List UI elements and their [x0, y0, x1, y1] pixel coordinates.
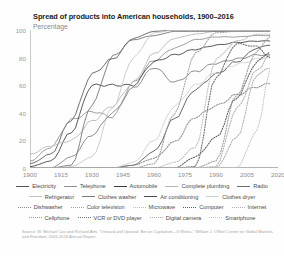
legend-label: Clothes washer — [98, 194, 136, 200]
legend-item[interactable]: Clothes dryer — [206, 194, 255, 200]
chart-screenshot: Spread of products into American househo… — [0, 0, 284, 256]
series-line — [30, 56, 270, 168]
source-note: Source: W. Michael Cox and Richard Alm, … — [22, 229, 274, 239]
legend-label: Refrigerator — [45, 194, 74, 200]
legend-swatch-icon — [150, 217, 163, 218]
series-line — [30, 31, 270, 153]
legend-swatch-icon — [64, 186, 77, 187]
y-tick-label: 60 — [19, 82, 26, 89]
legend-swatch-icon — [206, 196, 219, 197]
y-tick-label: 40 — [19, 109, 26, 116]
chart-subtitle: Percentage — [33, 23, 68, 30]
legend-label: VCR or DVD player — [94, 215, 142, 221]
legend-label: Radio — [253, 183, 268, 189]
legend-label: Internet — [248, 204, 267, 210]
legend-item[interactable]: Complete plumbing — [165, 183, 229, 189]
legend-item[interactable]: Electricity — [16, 183, 56, 189]
legend-swatch-icon — [78, 217, 91, 218]
legend-item[interactable]: Microwave — [133, 204, 176, 210]
legend-row: DishwasherColor televisionMicrowaveCompu… — [8, 202, 276, 213]
x-tick-label: 1930 — [85, 171, 99, 178]
legend-row: RefrigeratorClothes washerAir conditioni… — [8, 192, 276, 203]
legend-label: Clothes dryer — [222, 194, 255, 200]
legend-swatch-icon — [18, 207, 31, 208]
legend-row: ElectricityTelephoneAutomobileComplete p… — [8, 181, 276, 192]
legend-label: Air conditioning — [160, 194, 198, 200]
legend-swatch-icon — [82, 196, 95, 197]
legend-label: Telephone — [80, 183, 106, 189]
chart-legend: ElectricityTelephoneAutomobileComplete p… — [8, 181, 276, 223]
x-tick-label: 1900 — [23, 171, 37, 178]
legend-label: Electricity — [32, 183, 56, 189]
legend-swatch-icon — [232, 207, 245, 208]
series-line — [30, 31, 270, 168]
legend-label: Digital camera — [166, 215, 201, 221]
x-tick-label: 1960 — [147, 171, 161, 178]
series-line — [30, 30, 270, 164]
legend-label: Color television — [87, 204, 125, 210]
series-line — [30, 55, 270, 168]
series-line — [30, 45, 270, 168]
legend-item[interactable]: Clothes washer — [82, 194, 136, 200]
legend-item[interactable]: Computer — [183, 204, 223, 210]
plot-area — [30, 30, 278, 168]
series-line — [30, 54, 270, 168]
series-lines — [30, 30, 278, 168]
legend-label: Cellphone — [45, 215, 70, 221]
legend-swatch-icon — [29, 217, 42, 218]
legend-swatch-icon — [209, 217, 222, 218]
legend-swatch-icon — [71, 207, 84, 208]
legend-item[interactable]: Dishwasher — [18, 204, 63, 210]
x-tick-label: 1945 — [116, 171, 130, 178]
legend-label: Automobile — [130, 183, 158, 189]
legend-item[interactable]: Radio — [237, 183, 268, 189]
y-tick-label: 100 — [16, 27, 26, 34]
x-tick-label: 1990 — [209, 171, 223, 178]
legend-item[interactable]: Smartphone — [209, 215, 255, 221]
legend-item[interactable]: Refrigerator — [29, 194, 74, 200]
x-tick-label: 1915 — [54, 171, 68, 178]
legend-swatch-icon — [29, 196, 42, 197]
legend-label: Microwave — [149, 204, 176, 210]
legend-swatch-icon — [237, 186, 250, 187]
legend-item[interactable]: VCR or DVD player — [78, 215, 142, 221]
legend-item[interactable]: Color television — [71, 204, 125, 210]
x-tick-label: 2005 — [240, 171, 254, 178]
legend-swatch-icon — [183, 207, 196, 208]
legend-row: CellphoneVCR or DVD playerDigital camera… — [8, 213, 276, 224]
legend-item[interactable]: Air conditioning — [144, 194, 198, 200]
legend-label: Complete plumbing — [181, 183, 229, 189]
x-tick-label: 2020 — [271, 171, 284, 178]
legend-item[interactable]: Automobile — [114, 183, 158, 189]
series-line — [30, 31, 270, 168]
y-tick-label: 20 — [19, 137, 26, 144]
legend-label: Dishwasher — [34, 204, 63, 210]
legend-swatch-icon — [144, 196, 157, 197]
x-tick-label: 1975 — [178, 171, 192, 178]
legend-swatch-icon — [114, 186, 127, 187]
y-tick-label: 80 — [19, 54, 26, 61]
legend-swatch-icon — [133, 207, 146, 208]
legend-swatch-icon — [16, 186, 29, 187]
page-title: Spread of products into American househo… — [33, 12, 234, 21]
legend-label: Smartphone — [225, 215, 255, 221]
legend-item[interactable]: Cellphone — [29, 215, 70, 221]
legend-item[interactable]: Internet — [232, 204, 267, 210]
legend-label: Computer — [199, 204, 223, 210]
legend-item[interactable]: Digital camera — [150, 215, 201, 221]
legend-swatch-icon — [165, 186, 178, 187]
legend-item[interactable]: Telephone — [64, 183, 106, 189]
